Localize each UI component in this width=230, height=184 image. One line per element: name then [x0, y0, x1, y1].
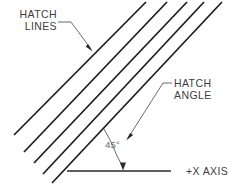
technical-drawing-canvas: HATCH LINES HATCH ANGLE 45° +X AXIS — [0, 0, 230, 184]
hatch-lines-label-line2: LINES — [25, 20, 57, 32]
hatch-lines-leader-line — [58, 22, 91, 49]
hatch-angle-leader-group — [126, 83, 172, 141]
hatch-lines-label-line1: HATCH — [20, 8, 57, 20]
hatch-lines-leader-arrowhead — [86, 44, 93, 51]
hatch-angle-figure: HATCH LINES HATCH ANGLE 45° +X AXIS — [0, 0, 230, 184]
angle-arc-arrowhead-axis — [120, 163, 126, 171]
hatch-angle-label-line1: HATCH — [174, 77, 211, 89]
x-axis-label: +X AXIS — [186, 165, 228, 177]
hatch-angle-leader-line — [128, 83, 172, 138]
hatch-lines-leader-group — [58, 22, 93, 51]
hatch-angle-leader-arrowhead — [126, 133, 133, 141]
angle-value-text: 45° — [105, 139, 120, 150]
hatch-angle-label-line2: ANGLE — [174, 89, 212, 101]
